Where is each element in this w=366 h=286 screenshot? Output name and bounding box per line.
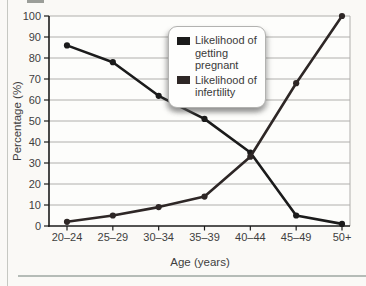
x-axis-title: Age (years) (170, 256, 229, 268)
data-point-1 (201, 194, 207, 200)
data-point-1 (339, 13, 345, 19)
data-point-0 (339, 221, 345, 227)
legend-label-infertility: Likelihood of infertility (195, 74, 259, 99)
legend-swatch-pregnant (177, 37, 190, 45)
x-tick-label: 25–29 (90, 231, 136, 244)
legend-entry-infertility: Likelihood of infertility (177, 74, 259, 99)
legend-entry-pregnant: Likelihood of getting pregnant (177, 34, 259, 72)
y-tick-label: 60 (9, 94, 41, 107)
data-point-1 (247, 154, 253, 160)
data-point-0 (201, 116, 207, 122)
y-tick-label: 70 (9, 73, 41, 86)
data-point-1 (64, 219, 70, 225)
y-tick-label: 10 (9, 199, 41, 212)
y-tick-label: 100 (9, 10, 41, 23)
x-tick-label: 20–24 (44, 231, 90, 244)
data-point-1 (110, 212, 116, 218)
x-tick-label: 30–34 (136, 231, 182, 244)
y-tick-label: 30 (9, 157, 41, 170)
x-tick-label: 50+ (319, 231, 365, 244)
data-point-0 (293, 212, 299, 218)
legend-label-pregnant: Likelihood of getting pregnant (195, 34, 259, 72)
x-tick-label: 45–49 (273, 231, 319, 244)
page: Percentage (%) 010203040506070809010020–… (0, 0, 366, 286)
y-tick-label: 50 (9, 115, 41, 128)
data-point-0 (64, 42, 70, 48)
y-tick-label: 0 (9, 220, 41, 233)
x-tick-label: 40–44 (227, 231, 273, 244)
data-point-1 (293, 80, 299, 86)
x-tick-label: 35–39 (182, 231, 228, 244)
chart: Percentage (%) 010203040506070809010020–… (0, 0, 366, 286)
data-point-0 (156, 93, 162, 99)
y-tick-label: 40 (9, 136, 41, 149)
data-point-1 (156, 204, 162, 210)
data-point-0 (110, 59, 116, 65)
y-tick-label: 80 (9, 52, 41, 65)
y-tick-label: 20 (9, 178, 41, 191)
legend: Likelihood of getting pregnant Likelihoo… (168, 26, 266, 108)
legend-swatch-infertility (177, 76, 190, 84)
y-tick-label: 90 (9, 31, 41, 44)
